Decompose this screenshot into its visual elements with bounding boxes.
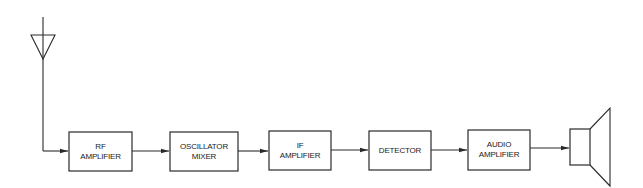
block-audio-amplifier: AUDIO AMPLIFIER	[468, 130, 530, 170]
block-audio-line2: AMPLIFIER	[479, 150, 520, 159]
block-if-line2: AMPLIFIER	[280, 151, 321, 160]
block-if-line1: IF	[297, 141, 304, 150]
block-if-amplifier: IF AMPLIFIER	[269, 131, 331, 170]
block-osc-line2: MIXER	[192, 152, 217, 161]
block-audio-line1: AUDIO	[487, 140, 511, 149]
block-rf-line1: RF	[95, 142, 106, 151]
receiver-block-diagram: RF AMPLIFIER OSCILLATOR MIXER IF AMPLIFI…	[0, 0, 643, 188]
block-osc-line1: OSCILLATOR	[180, 142, 228, 151]
block-oscillator-mixer: OSCILLATOR MIXER	[170, 132, 238, 171]
speaker-icon	[570, 108, 610, 186]
block-rf-amplifier: RF AMPLIFIER	[69, 132, 132, 171]
antenna-icon	[31, 17, 55, 151]
block-det-line1: DETECTOR	[379, 146, 422, 155]
block-detector: DETECTOR	[369, 131, 431, 170]
block-rf-line2: AMPLIFIER	[80, 152, 121, 161]
